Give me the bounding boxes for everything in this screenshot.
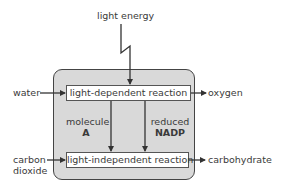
molecule-a-line2: A [66,127,106,138]
carbon-dioxide-line2: dioxide [13,165,47,176]
oxygen-label: oxygen [208,87,243,98]
carbohydrate-label: carbohydrate [208,154,272,165]
carbon-dioxide-label: carbon dioxide [13,154,47,176]
carbon-dioxide-line1: carbon [13,154,47,165]
photosynthesis-diagram: light-dependent reaction light-independe… [0,0,284,189]
light-energy-label: light energy [97,10,154,21]
molecule-a-label: molecule A [66,116,106,138]
light-energy-arrow [121,24,130,84]
reduced-nadp-label: reduced NADP [150,116,190,138]
reduced-nadp-line1: reduced [150,116,190,127]
molecule-a-line1: molecule [66,116,106,127]
water-label: water [13,87,40,98]
reduced-nadp-line2: NADP [150,127,190,138]
